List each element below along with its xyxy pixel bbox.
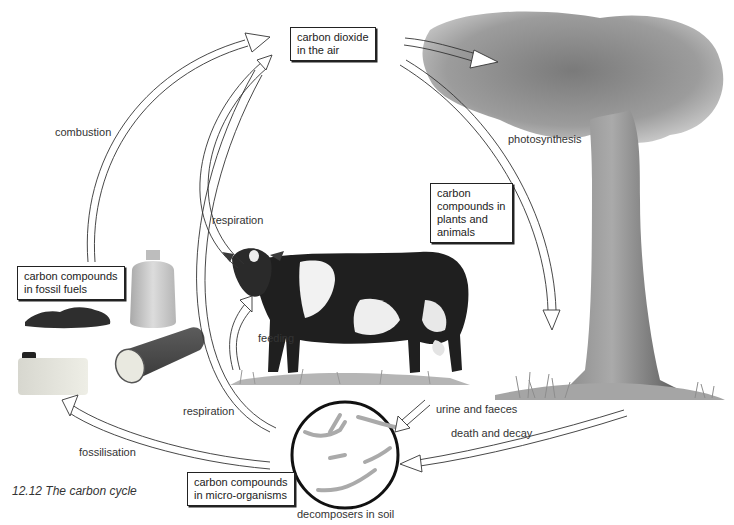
box-pa-line-3: plants and	[437, 213, 506, 226]
label-combustion: combustion	[55, 126, 111, 138]
label-respiration-animal: respiration	[212, 214, 263, 226]
box-air-line-2: in the air	[297, 44, 369, 57]
figure-caption: 12.12 The carbon cycle	[12, 484, 137, 498]
label-decomposers: decomposers in soil	[297, 508, 394, 520]
fuel-can-illustration	[18, 352, 88, 395]
box-ff-line-1: carbon compounds	[24, 270, 118, 283]
box-pa-line-1: carbon	[437, 187, 506, 200]
box-micro-organisms: carbon compounds in micro-organisms	[187, 472, 295, 506]
box-carbon-dioxide-air: carbon dioxide in the air	[290, 27, 376, 61]
carbon-cycle-diagram: carbon dioxide in the air carbon compoun…	[0, 0, 734, 525]
box-pa-line-2: compounds in	[437, 200, 506, 213]
box-fossil-fuels: carbon compounds in fossil fuels	[17, 266, 125, 300]
box-plants-animals: carbon compounds in plants and animals	[430, 183, 513, 243]
box-pa-line-4: animals	[437, 226, 506, 239]
box-mo-line-2: in micro-organisms	[194, 489, 288, 502]
box-ff-line-2: in fossil fuels	[24, 283, 118, 296]
box-air-line-1: carbon dioxide	[297, 31, 369, 44]
box-mo-line-1: carbon compounds	[194, 476, 288, 489]
coal-lumps-illustration	[25, 307, 110, 328]
log-illustration	[111, 327, 204, 386]
label-feeding: feeding	[258, 332, 294, 344]
decomposers-magnified-circle	[292, 402, 398, 508]
cow-illustration	[222, 248, 470, 385]
label-fossilisation: fossilisation	[79, 446, 136, 458]
label-photosynthesis: photosynthesis	[508, 133, 581, 145]
label-death-decay: death and decay	[451, 427, 532, 439]
label-urine-faeces: urine and faeces	[436, 403, 517, 415]
label-respiration-micro: respiration	[183, 405, 234, 417]
gas-cylinder-illustration	[130, 250, 176, 328]
